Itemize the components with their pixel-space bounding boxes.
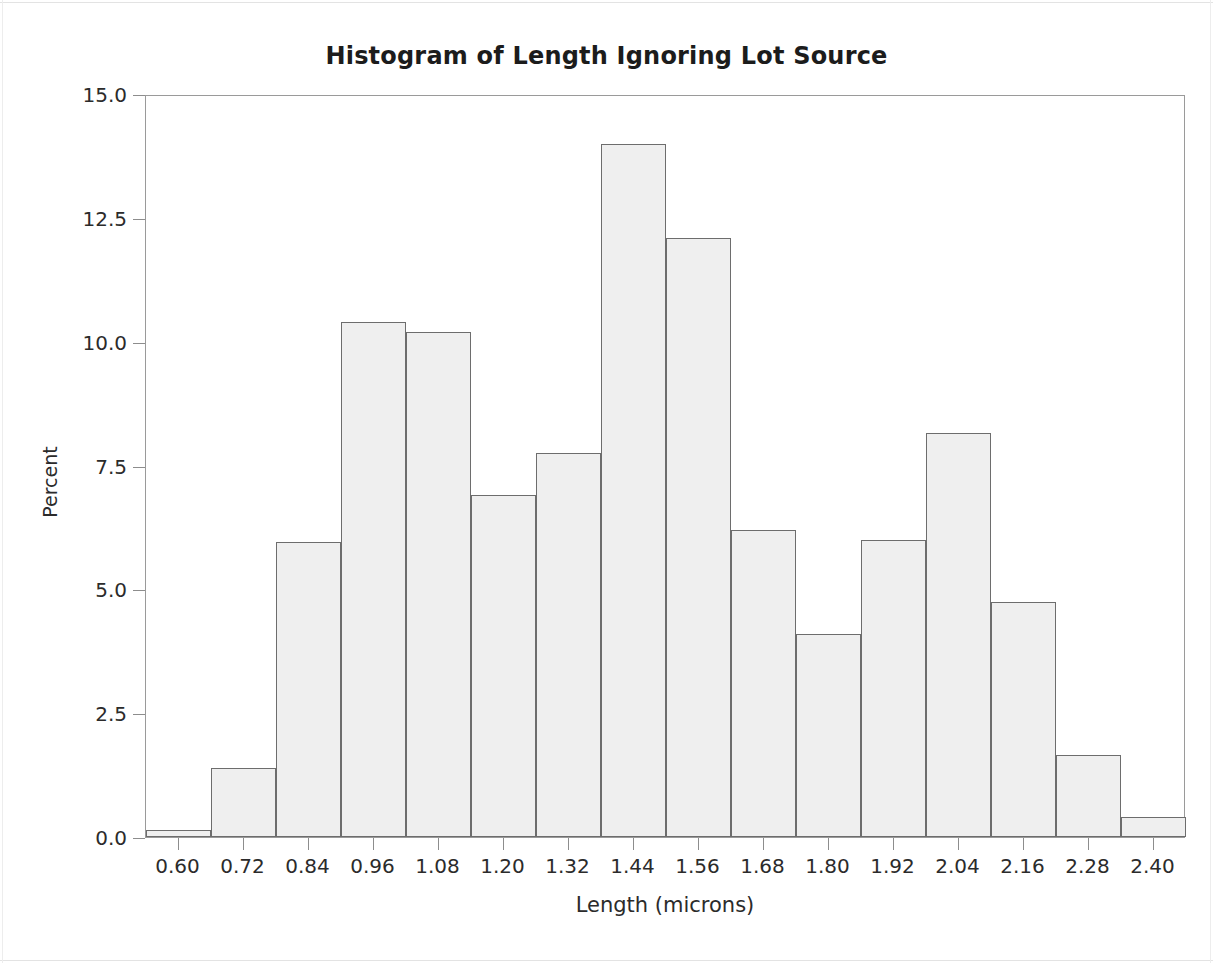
y-axis-tick — [133, 343, 145, 344]
x-axis-tick-label: 0.72 — [220, 854, 265, 878]
x-axis-tick-label: 1.20 — [480, 854, 525, 878]
x-axis-tick-label: 1.80 — [805, 854, 850, 878]
x-axis-title: Length (microns) — [145, 893, 1185, 917]
x-axis-tick — [438, 838, 439, 850]
y-axis-tick-label: 15.0 — [82, 83, 127, 107]
histogram-bar — [601, 144, 666, 837]
histogram-bar — [211, 768, 276, 837]
plot-area — [145, 95, 1185, 838]
x-axis-tick — [1153, 838, 1154, 850]
histogram-bar — [536, 453, 601, 837]
histogram-bar — [146, 830, 211, 837]
x-axis-tick — [1088, 838, 1089, 850]
histogram-bar — [276, 542, 341, 837]
x-axis: 0.600.720.840.961.081.201.321.441.561.68… — [145, 838, 1185, 898]
x-axis-tick-label: 2.04 — [935, 854, 980, 878]
y-axis-tick-label: 0.0 — [95, 826, 127, 850]
x-axis-tick-label: 1.92 — [870, 854, 915, 878]
histogram-bar — [991, 602, 1056, 837]
y-axis-tick-label: 7.5 — [95, 455, 127, 479]
x-axis-tick — [698, 838, 699, 850]
x-axis-tick — [243, 838, 244, 850]
y-axis: 0.02.55.07.510.012.515.0 — [0, 95, 145, 838]
chart-title: Histogram of Length Ignoring Lot Source — [0, 42, 1213, 70]
x-axis-tick-label: 1.32 — [545, 854, 590, 878]
x-axis-tick-label: 2.28 — [1065, 854, 1110, 878]
x-axis-tick — [308, 838, 309, 850]
x-axis-tick — [1023, 838, 1024, 850]
histogram-bar — [1121, 817, 1186, 837]
x-axis-tick — [568, 838, 569, 850]
histogram-bar — [406, 332, 471, 837]
histogram-bar — [926, 433, 991, 837]
chart-page: Histogram of Length Ignoring Lot Source … — [0, 0, 1213, 963]
y-axis-tick — [133, 467, 145, 468]
histogram-bars — [146, 96, 1184, 837]
x-axis-tick-label: 2.16 — [1000, 854, 1045, 878]
histogram-bar — [666, 238, 731, 837]
x-axis-tick-label: 1.44 — [610, 854, 655, 878]
page-edge-bottom — [0, 960, 1213, 961]
y-axis-tick-label: 12.5 — [82, 207, 127, 231]
y-axis-tick — [133, 838, 145, 839]
histogram-bar — [471, 495, 536, 837]
x-axis-tick — [958, 838, 959, 850]
x-axis-tick — [828, 838, 829, 850]
histogram-bar — [341, 322, 406, 837]
y-axis-tick — [133, 714, 145, 715]
x-axis-tick-label: 0.84 — [285, 854, 330, 878]
y-axis-tick-label: 5.0 — [95, 578, 127, 602]
x-axis-tick — [893, 838, 894, 850]
x-axis-tick-label: 0.60 — [155, 854, 200, 878]
y-axis-tick-label: 2.5 — [95, 702, 127, 726]
y-axis-tick — [133, 590, 145, 591]
x-axis-tick — [763, 838, 764, 850]
x-axis-tick — [633, 838, 634, 850]
x-axis-tick — [503, 838, 504, 850]
x-axis-tick-label: 2.40 — [1130, 854, 1175, 878]
x-axis-tick-label: 1.08 — [415, 854, 460, 878]
y-axis-tick-label: 10.0 — [82, 331, 127, 355]
x-axis-tick-label: 1.68 — [740, 854, 785, 878]
y-axis-tick — [133, 219, 145, 220]
x-axis-tick — [373, 838, 374, 850]
histogram-bar — [1056, 755, 1121, 837]
x-axis-tick — [178, 838, 179, 850]
x-axis-tick-label: 1.56 — [675, 854, 720, 878]
histogram-bar — [796, 634, 861, 837]
histogram-bar — [861, 540, 926, 837]
page-edge-top — [0, 2, 1213, 3]
y-axis-tick — [133, 95, 145, 96]
x-axis-tick-label: 0.96 — [350, 854, 395, 878]
page-edge-right — [1210, 0, 1211, 963]
histogram-bar — [731, 530, 796, 837]
